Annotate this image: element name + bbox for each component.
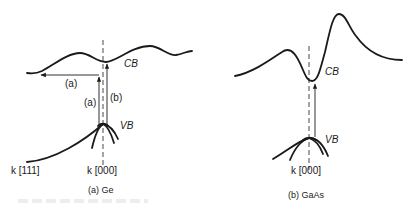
- ge-k111-label: k [111]: [11, 166, 40, 176]
- ge-transition-a-vertical-label: (a): [84, 98, 96, 108]
- gaas-conduction-band-curve: [235, 14, 402, 81]
- panel-ge: [27, 40, 192, 168]
- ge-k000-label: k [000]: [87, 166, 117, 176]
- band-diagram-canvas: [0, 0, 412, 210]
- ge-panel-caption: (a) Ge: [88, 186, 114, 195]
- ge-cb-label: CB: [124, 59, 138, 69]
- cropped-figure-caption-line: [18, 199, 148, 203]
- ge-conduction-band-curve: [27, 46, 192, 73]
- ge-transition-a-horizontal-label: (a): [65, 79, 77, 89]
- gaas-panel-caption: (b) GaAs: [288, 191, 324, 200]
- gaas-k000-label: k [000]: [291, 166, 321, 176]
- gaas-cb-label: CB: [325, 67, 339, 77]
- gaas-vb-label: VB: [325, 135, 338, 145]
- panel-gaas: [235, 14, 402, 170]
- ge-valence-band-heavy: [27, 124, 103, 162]
- ge-vb-label: VB: [120, 121, 133, 131]
- ge-transition-b-vertical-label: (b): [110, 93, 122, 103]
- band-structure-figure: CB (a) (a) (b) VB k [111] k [000] (a) Ge…: [0, 0, 412, 210]
